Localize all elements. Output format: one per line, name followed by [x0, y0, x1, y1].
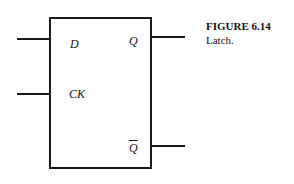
d-input-wire — [17, 38, 49, 40]
q-bar-output-wire — [152, 145, 185, 147]
q-pin-label: Q — [129, 35, 138, 47]
latch-diagram: D CK Q Q FIGURE 6.14 Latch. — [0, 0, 294, 184]
figure-number: FIGURE 6.14 — [206, 20, 271, 32]
q-output-wire — [152, 36, 185, 38]
q-bar-pin-label: Q — [129, 142, 138, 154]
figure-caption: Latch. — [206, 34, 234, 46]
ck-pin-label: CK — [69, 88, 85, 100]
d-pin-label: D — [70, 38, 79, 50]
ck-input-wire — [17, 93, 49, 95]
